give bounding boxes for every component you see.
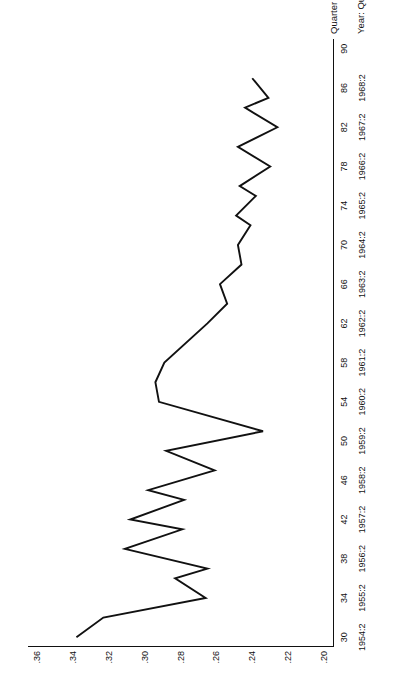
quarter-tick-label: 42 — [339, 505, 349, 535]
quarter-year-label: 1965:2 — [357, 184, 367, 228]
value-tick-label: .32 — [104, 651, 114, 675]
quarter-year-label: 1962:2 — [357, 301, 367, 345]
quarter-year-label: 1958:2 — [357, 458, 367, 502]
quarter-tick-label: 66 — [339, 269, 349, 299]
quarter-year-label: 1959:2 — [357, 419, 367, 463]
quarter-year-label: 1954:2 — [357, 615, 367, 659]
quarter-tick-label: 54 — [339, 387, 349, 417]
quarter-tick-label: 90 — [339, 34, 349, 64]
quarter-year-label: 1963:2 — [357, 262, 367, 306]
quarter-tick-label: 34 — [339, 583, 349, 613]
value-tick-label: .34 — [68, 651, 78, 675]
quarter-year-label: 1961:2 — [357, 341, 367, 385]
quarter-tick-label: 62 — [339, 308, 349, 338]
quarter-tick-label: 70 — [339, 230, 349, 260]
x-axis-subtitle: Year: Quarter — [355, 0, 366, 34]
quarter-year-label: 1966:2 — [357, 144, 367, 188]
value-tick-label: .22 — [283, 651, 293, 675]
quarter-year-label: 1967:2 — [357, 105, 367, 149]
quarter-tick-label: 38 — [339, 544, 349, 574]
plot-area: .36.34.32.30.28.26.24.22.20 303438424650… — [0, 0, 399, 675]
quarter-year-label: 1960:2 — [357, 380, 367, 424]
quarter-tick-label: 78 — [339, 151, 349, 181]
quarter-tick-label: 30 — [339, 622, 349, 652]
quarter-tick-label: 86 — [339, 73, 349, 103]
quarter-tick-label: 82 — [339, 112, 349, 142]
quarter-year-label: 1955:2 — [357, 576, 367, 620]
series-line — [76, 78, 277, 637]
rotated-chart-figure: .36.34.32.30.28.26.24.22.20 303438424650… — [0, 0, 399, 675]
quarter-year-label: 1964:2 — [357, 223, 367, 267]
value-tick-label: .36 — [32, 651, 42, 675]
quarter-year-label: 1968:2 — [357, 66, 367, 110]
value-tick-label: .24 — [247, 651, 257, 675]
quarter-tick-label: 46 — [339, 465, 349, 495]
value-tick-label: .30 — [140, 651, 150, 675]
quarter-tick-label: 58 — [339, 348, 349, 378]
quarter-year-label: 1956:2 — [357, 537, 367, 581]
quarter-tick-label: 74 — [339, 191, 349, 221]
value-tick-label: .28 — [176, 651, 186, 675]
quarter-tick-label: 50 — [339, 426, 349, 456]
x-axis-title: Quarter — [328, 2, 339, 34]
value-tick-label: .26 — [211, 651, 221, 675]
value-tick-label: .20 — [319, 651, 329, 675]
quarter-year-label: 1957:2 — [357, 498, 367, 542]
